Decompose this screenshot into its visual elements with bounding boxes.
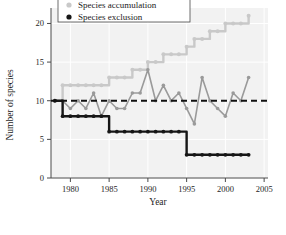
data-point bbox=[247, 153, 251, 157]
data-point bbox=[61, 83, 65, 87]
data-point bbox=[239, 153, 243, 157]
legend-marker-icon bbox=[66, 2, 71, 7]
species-line-chart: 05101520198019851990199520002005 Species… bbox=[0, 0, 286, 235]
data-point bbox=[231, 21, 235, 25]
data-point bbox=[68, 114, 72, 118]
data-point bbox=[68, 83, 72, 87]
legend-label[interactable]: Species exclusion bbox=[78, 12, 143, 22]
data-point bbox=[223, 21, 227, 25]
data-point bbox=[84, 83, 88, 87]
chart-figure: 05101520198019851990199520002005 Species… bbox=[0, 0, 286, 235]
x-tick-label: 1980 bbox=[62, 184, 79, 194]
data-point bbox=[169, 52, 173, 56]
data-point bbox=[84, 114, 88, 118]
data-point bbox=[239, 21, 243, 25]
data-point bbox=[146, 68, 150, 72]
data-point bbox=[107, 76, 111, 80]
y-tick-label: 5 bbox=[40, 134, 44, 144]
data-point bbox=[130, 68, 134, 72]
data-point bbox=[131, 91, 135, 95]
chart-canvas: 05101520198019851990199520002005 Species… bbox=[0, 0, 286, 235]
data-point bbox=[162, 83, 166, 87]
y-tick-label: 10 bbox=[36, 96, 45, 106]
data-point bbox=[200, 37, 204, 41]
data-point bbox=[216, 153, 220, 157]
data-point bbox=[247, 14, 251, 18]
data-point bbox=[69, 107, 73, 111]
data-point bbox=[107, 130, 111, 134]
data-point bbox=[138, 68, 142, 72]
data-point bbox=[115, 130, 119, 134]
y-tick-label: 20 bbox=[36, 18, 45, 28]
x-tick-label: 1995 bbox=[178, 184, 195, 194]
data-point bbox=[146, 60, 150, 64]
data-point bbox=[169, 130, 173, 134]
data-point bbox=[61, 114, 65, 118]
data-point bbox=[84, 107, 88, 111]
data-point bbox=[208, 29, 212, 33]
data-point bbox=[99, 83, 103, 87]
data-point bbox=[146, 130, 150, 134]
y-tick-label: 15 bbox=[36, 57, 45, 67]
data-point bbox=[115, 76, 119, 80]
data-point bbox=[224, 114, 228, 118]
data-point bbox=[138, 130, 142, 134]
data-point bbox=[76, 83, 80, 87]
data-point bbox=[192, 153, 196, 157]
data-point bbox=[200, 76, 204, 80]
data-point bbox=[161, 130, 165, 134]
data-point bbox=[76, 114, 80, 118]
data-point bbox=[216, 29, 220, 33]
data-point bbox=[123, 76, 127, 80]
data-point bbox=[192, 37, 196, 41]
x-tick-label: 2000 bbox=[217, 184, 234, 194]
x-tick-label: 1985 bbox=[101, 184, 118, 194]
data-point bbox=[216, 107, 220, 111]
data-point bbox=[138, 91, 142, 95]
data-point bbox=[247, 76, 251, 80]
x-tick-label: 2005 bbox=[256, 184, 273, 194]
data-point bbox=[208, 153, 212, 157]
data-point bbox=[185, 107, 189, 111]
data-point bbox=[185, 45, 189, 49]
data-point bbox=[99, 114, 103, 118]
y-axis-label: Number of species bbox=[5, 69, 15, 141]
data-point bbox=[107, 99, 111, 103]
data-point bbox=[231, 91, 235, 95]
data-point bbox=[123, 107, 127, 111]
data-point bbox=[154, 60, 158, 64]
x-axis-label: Year bbox=[149, 197, 167, 207]
x-tick-label: 1990 bbox=[139, 184, 156, 194]
data-point bbox=[177, 91, 181, 95]
data-point bbox=[177, 130, 181, 134]
legend-label[interactable]: Species accumulation bbox=[78, 0, 157, 10]
data-point bbox=[92, 83, 96, 87]
data-point bbox=[92, 91, 96, 95]
legend-marker-icon bbox=[66, 14, 71, 19]
data-point bbox=[231, 153, 235, 157]
data-point bbox=[161, 52, 165, 56]
data-point bbox=[154, 130, 158, 134]
data-point bbox=[123, 130, 127, 134]
data-point bbox=[92, 114, 96, 118]
y-tick-label: 0 bbox=[40, 173, 44, 183]
data-point bbox=[223, 153, 227, 157]
data-point bbox=[185, 153, 189, 157]
data-point bbox=[130, 130, 134, 134]
data-point bbox=[200, 153, 204, 157]
data-point bbox=[177, 52, 181, 56]
data-point bbox=[193, 122, 197, 126]
chart-legend[interactable]: Species accumulationSpecies exclusion bbox=[58, 0, 190, 22]
data-point bbox=[115, 107, 119, 111]
